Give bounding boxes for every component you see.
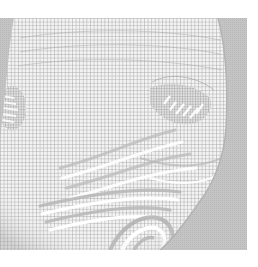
mesh-render [0, 18, 247, 250]
face-mesh-image: Grayscale 3D wireframe mesh rendering of… [0, 18, 247, 250]
